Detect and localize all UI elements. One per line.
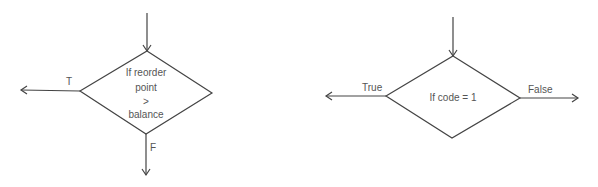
true-label: T [66,76,72,87]
decision-right: If code = 1 True False [326,17,578,138]
false-label: F [150,142,156,153]
condition-line-2: point [135,82,157,93]
condition-text: If code = 1 [430,92,477,103]
condition-line-1: If reorder [126,67,167,78]
condition-line-3: > [143,96,149,107]
true-arrow-left [21,90,80,91]
condition-line-4: balance [128,109,163,120]
decision-left: If reorder point > balance T F [21,13,212,175]
false-label: False [528,84,553,95]
flowchart-canvas: If reorder point > balance T F If code =… [0,0,598,187]
true-label: True [362,82,383,93]
